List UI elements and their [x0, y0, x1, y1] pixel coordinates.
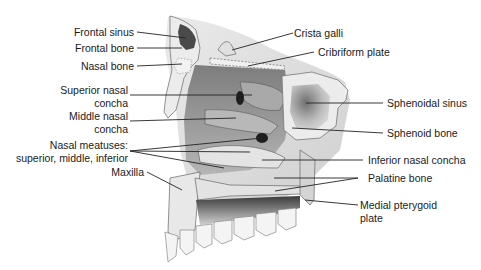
label-nasal-meatuses-line1: Nasal meatuses:	[0, 139, 128, 151]
label-nasal-meatuses-line2: superior, middle, inferior	[0, 152, 128, 164]
label-cribriform-plate: Cribriform plate	[318, 46, 390, 58]
medial-pterygoid-plate	[300, 150, 315, 205]
label-superior-nasal-concha-line2: concha	[30, 97, 128, 109]
label-nasal-bone: Nasal bone	[40, 60, 134, 72]
label-frontal-bone: Frontal bone	[40, 42, 134, 54]
label-middle-nasal-concha-line2: concha	[30, 123, 128, 135]
label-sphenoidal-sinus: Sphenoidal sinus	[387, 97, 467, 109]
label-inferior-nasal-concha: Inferior nasal concha	[368, 154, 465, 166]
label-medial-pterygoid-plate-line2: plate	[360, 212, 383, 224]
sphenoidal-sinus	[290, 84, 330, 130]
label-middle-nasal-concha-line1: Middle nasal	[30, 110, 128, 122]
label-crista-galli: Crista galli	[294, 27, 343, 39]
label-sphenoid-bone: Sphenoid bone	[387, 127, 458, 139]
label-maxilla: Maxilla	[60, 166, 144, 178]
label-medial-pterygoid-plate-line1: Medial pterygoid	[360, 199, 437, 211]
label-palatine-bone: Palatine bone	[368, 172, 432, 184]
label-superior-nasal-concha-line1: Superior nasal	[30, 84, 128, 96]
label-frontal-sinus: Frontal sinus	[40, 26, 134, 38]
